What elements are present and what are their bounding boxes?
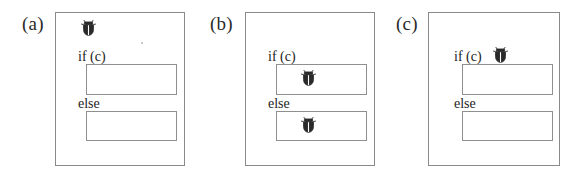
- panel-c-label: (c): [396, 14, 418, 33]
- panel-a: (a) if (c) else: [0, 0, 195, 173]
- bug-icon: [493, 47, 508, 63]
- panel-c-then-block: [462, 64, 553, 95]
- scan-speck: [141, 42, 143, 44]
- panel-b-else-block: [276, 111, 367, 141]
- panel-c: (c) if (c) else: [376, 0, 577, 173]
- bug-icon: [81, 20, 96, 36]
- panel-b: (b) if (c) else: [190, 0, 385, 173]
- panel-b-if-label: if (c): [268, 50, 296, 64]
- panel-b-then-block: [276, 64, 367, 95]
- panel-a-then-block: [86, 64, 177, 95]
- panel-c-if-label: if (c): [454, 50, 482, 64]
- panel-a-if-label: if (c): [78, 50, 106, 64]
- panel-b-label: (b): [210, 14, 233, 33]
- panel-a-else-label: else: [78, 97, 100, 111]
- panel-a-else-block: [86, 111, 177, 141]
- panel-c-else-label: else: [454, 97, 476, 111]
- bug-icon: [301, 70, 316, 86]
- panel-c-else-block: [462, 111, 553, 141]
- bug-icon: [301, 117, 316, 133]
- panel-a-label: (a): [22, 14, 44, 33]
- panel-b-else-label: else: [268, 97, 290, 111]
- figure-canvas: (a) if (c) else (b): [0, 0, 577, 173]
